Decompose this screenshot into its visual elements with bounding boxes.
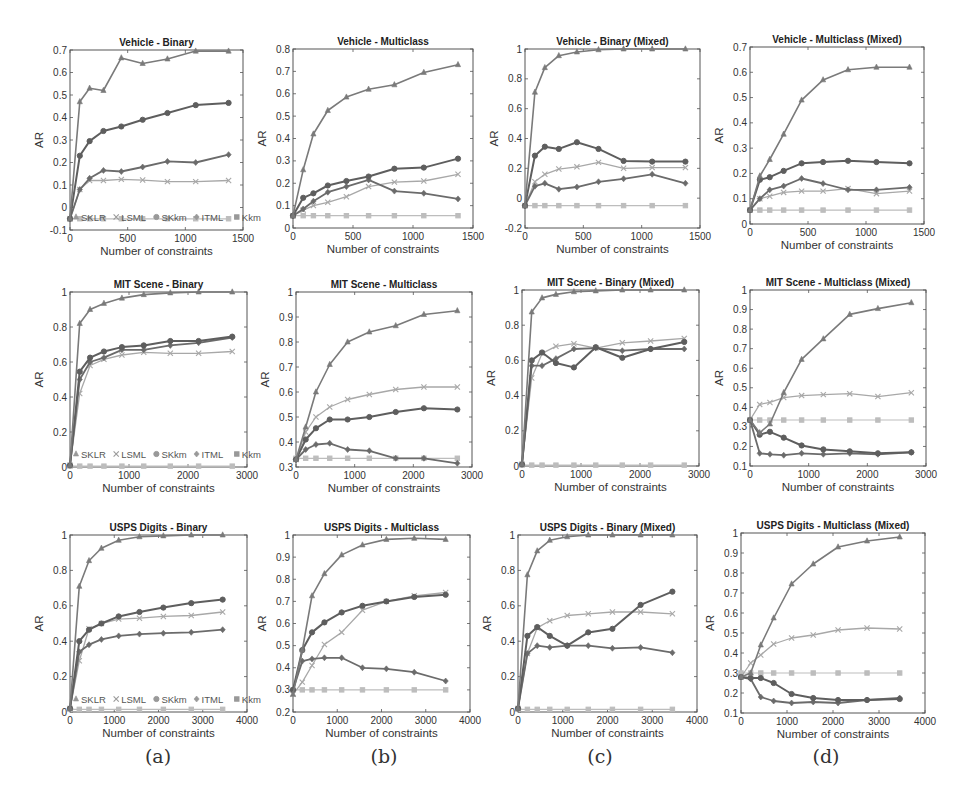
y-tick-label: 0.2 (53, 157, 67, 168)
x-tick-label: 0 (522, 231, 528, 242)
x-tick-label: 2000 (822, 716, 845, 727)
y-tick-label: 0.2 (53, 427, 67, 438)
subplot-title: Vehicle - Multiclass (Mixed) (772, 34, 901, 45)
y-tick-label: 0.4 (505, 390, 519, 401)
x-tick-label: 1000 (855, 227, 878, 238)
x-tick-label: 0 (290, 231, 296, 242)
column-label-d: (d) (813, 745, 840, 767)
y-tick-label: 0.7 (733, 42, 747, 53)
x-axis-label: Number of constraints (781, 239, 894, 251)
y-axis-label: AR (256, 616, 268, 632)
x-tick-label: 1000 (326, 715, 349, 726)
x-tick-label: 4000 (236, 715, 259, 726)
subplot-title: MIT Scene - Multiclass (331, 279, 438, 290)
y-tick-label: 0.6 (501, 600, 515, 611)
legend-label-skkm: SKkm (161, 212, 186, 223)
y-tick-label: 0.2 (724, 688, 738, 699)
legend-label-kkm: Kkm (242, 694, 261, 705)
x-tick-label: 3000 (868, 716, 891, 727)
y-tick-label: 0.4 (276, 133, 290, 144)
x-tick-label: 500 (575, 231, 592, 242)
legend-label-kkm: Kkm (242, 212, 261, 223)
y-tick-label: 0.7 (276, 66, 290, 77)
y-tick-label: 0.8 (501, 565, 515, 576)
x-tick-label: 1000 (402, 231, 425, 242)
y-tick-label: 0.8 (279, 337, 293, 348)
y-tick-label: 0.4 (733, 402, 747, 413)
x-tick-label: 500 (800, 227, 817, 238)
y-tick-label: 0 (61, 707, 67, 718)
x-tick-label: 1500 (913, 227, 936, 238)
x-axis-label: Number of constraints (554, 481, 667, 493)
x-tick-label: 1500 (689, 231, 712, 242)
subplot-12: 010002000300040000.10.20.30.40.50.60.70.… (704, 520, 937, 740)
y-tick-label: 0.9 (279, 312, 293, 323)
y-tick-label: 0.6 (505, 355, 519, 366)
column-label-c: (c) (587, 745, 612, 767)
x-tick-label: 1000 (570, 469, 593, 480)
y-tick-label: 0.9 (276, 552, 290, 563)
x-tick-label: 3000 (192, 715, 215, 726)
subplot-title: USPS Digits - Binary (110, 522, 208, 533)
y-tick-label: 0.5 (733, 382, 747, 393)
subplot-title: USPS Digits - Multiclass (Mixed) (757, 520, 910, 531)
y-tick-label: 0.4 (508, 133, 522, 144)
y-tick-label: 0.2 (276, 178, 290, 189)
y-tick-label: 1 (741, 285, 747, 296)
y-tick-label: 0.4 (53, 636, 67, 647)
y-tick-label: 0.6 (53, 600, 67, 611)
y-tick-label: 0.5 (276, 640, 290, 651)
x-axis-label: Number of constraints (325, 727, 438, 739)
legend-label-sklr: SKLR (81, 212, 106, 223)
y-tick-label: 0.6 (276, 618, 290, 629)
legend-label-lsml: LSML (121, 212, 146, 223)
y-axis-label: AR (713, 128, 725, 144)
x-tick-label: 0 (67, 470, 73, 481)
x-tick-label: 2000 (629, 469, 652, 480)
y-axis-label: AR (704, 615, 716, 631)
y-tick-label: 0.6 (733, 67, 747, 78)
y-axis-label: AR (33, 372, 45, 388)
y-axis-label: AR (259, 372, 271, 388)
legend-label-skkm: SKkm (161, 449, 186, 460)
y-tick-label: 0.6 (724, 608, 738, 619)
circle-icon (154, 696, 159, 701)
square-icon (235, 215, 239, 219)
y-axis-label: AR (713, 370, 725, 386)
y-tick-label: 0 (61, 202, 67, 213)
y-tick-label: 0.1 (733, 461, 747, 472)
circle-icon (154, 451, 159, 456)
subplot-9: 0100020003000400000.20.40.60.81USPS Digi… (33, 522, 261, 739)
x-tick-label: 2000 (402, 470, 425, 481)
y-tick-label: 1 (284, 530, 290, 541)
x-axis-label: Number of constraints (100, 245, 213, 257)
legend-label-skkm: SKkm (161, 694, 186, 705)
subplot-7: 010002000300000.20.40.60.81MIT Scene - B… (485, 277, 711, 493)
y-tick-label: 0.8 (508, 73, 522, 84)
y-tick-label: 0.7 (53, 45, 67, 56)
legend-label-lsml: LSML (121, 449, 146, 460)
x-tick-label: 1000 (118, 470, 141, 481)
y-tick-label: 0.3 (733, 421, 747, 432)
x-tick-label: 3000 (236, 470, 259, 481)
y-tick-label: 0.8 (53, 565, 67, 576)
y-tick-label: 0.8 (505, 320, 519, 331)
y-tick-label: 0 (284, 223, 290, 234)
column-label-b: (b) (371, 745, 398, 767)
subplot-3: 050010001500-0.200.20.40.60.81Vehicle - … (488, 36, 712, 255)
y-tick-label: 0.9 (724, 548, 738, 559)
y-tick-label: 1 (61, 530, 67, 541)
y-tick-label: 1 (61, 287, 67, 298)
y-tick-label: 0.2 (505, 425, 519, 436)
x-tick-label: 1000 (798, 469, 821, 480)
subplot-title: MIT Scene - Binary (114, 279, 204, 290)
x-axis-label: Number of constraints (551, 727, 664, 739)
x-tick-label: 4000 (914, 716, 937, 727)
x-tick-label: 1500 (462, 231, 485, 242)
y-tick-label: 0.8 (53, 322, 67, 333)
x-tick-label: 1000 (631, 231, 654, 242)
x-tick-label: 1000 (344, 470, 367, 481)
x-tick-label: 0 (67, 233, 73, 244)
y-tick-label: 1 (513, 285, 519, 296)
y-tick-label: 0.8 (733, 324, 747, 335)
